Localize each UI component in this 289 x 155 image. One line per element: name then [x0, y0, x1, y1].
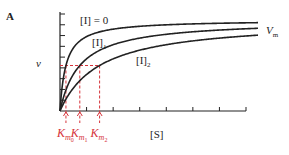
curve-2 — [60, 35, 258, 111]
curve-1 — [60, 28, 258, 111]
km-guide-lines — [60, 66, 102, 124]
y-axis-label: v — [36, 57, 41, 69]
michaelis-menten-chart: A v [S] [I] = 0 [I]1 [I]2 Vm Km0Km1Km2 — [0, 0, 289, 155]
km-label-2: Km2 — [90, 126, 108, 143]
vmax-label: Vm — [266, 24, 279, 39]
axes — [60, 12, 246, 111]
series-label-i2: [I]2 — [136, 54, 151, 69]
curves — [60, 23, 258, 111]
series-label-i0: [I] = 0 — [80, 14, 109, 26]
series-label-i1: [I]1 — [92, 36, 107, 51]
x-axis-label: [S] — [150, 128, 163, 140]
panel-label: A — [6, 10, 14, 22]
km-labels: Km0Km1Km2 — [56, 126, 107, 143]
